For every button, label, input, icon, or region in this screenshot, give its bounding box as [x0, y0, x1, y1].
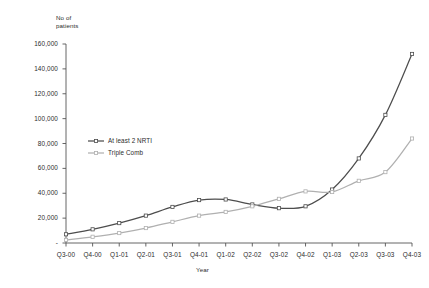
series-marker-1: [224, 210, 227, 213]
series-marker-1: [171, 220, 174, 223]
series-marker-0: [64, 233, 67, 236]
series-marker-1: [251, 205, 254, 208]
series-line-0: [66, 54, 412, 234]
series-marker-1: [91, 235, 94, 238]
series-marker-1: [331, 190, 334, 193]
series-marker-1: [304, 190, 307, 193]
series-marker-0: [304, 205, 307, 208]
series-marker-0: [357, 157, 360, 160]
series-marker-1: [357, 179, 360, 182]
series-marker-1: [144, 226, 147, 229]
series-marker-1: [410, 137, 413, 140]
series-marker-0: [118, 222, 121, 225]
series-marker-0: [224, 198, 227, 201]
line-chart: No ofpatients Year -20,00040,00060,00080…: [0, 0, 429, 288]
series-marker-1: [118, 231, 121, 234]
series-marker-1: [277, 197, 280, 200]
series-marker-0: [384, 113, 387, 116]
series-marker-0: [277, 207, 280, 210]
series-marker-0: [171, 205, 174, 208]
series-marker-0: [197, 198, 200, 201]
series-marker-0: [144, 214, 147, 217]
series-marker-1: [64, 238, 67, 241]
legend-marker-1: [94, 151, 97, 154]
series-marker-1: [384, 171, 387, 174]
plot-area: [0, 0, 429, 288]
legend-marker-0: [94, 139, 97, 142]
series-marker-0: [410, 52, 413, 55]
series-marker-1: [197, 214, 200, 217]
series-marker-0: [91, 228, 94, 231]
